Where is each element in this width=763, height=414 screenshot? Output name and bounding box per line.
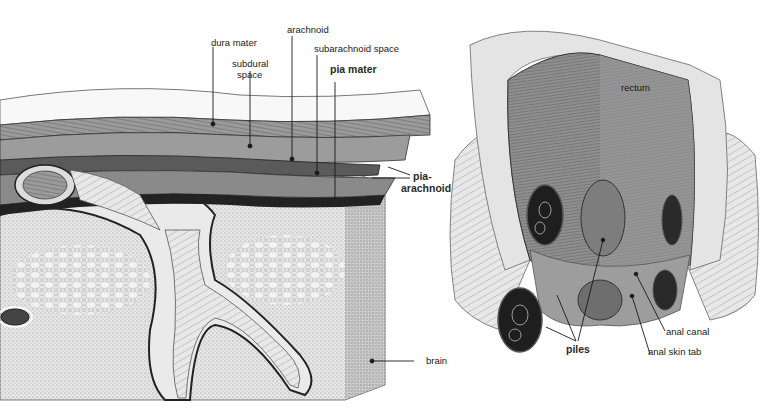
label-pia-mater: pia mater (330, 64, 377, 76)
label-anal-canal: anal canal (666, 327, 709, 337)
external-pile (498, 288, 542, 352)
label-dura-mater: dura mater (211, 38, 257, 48)
label-subdural-space-line2: space (237, 70, 262, 80)
anatomy-figure: dura mater subdural space arachnoid suba… (0, 0, 763, 414)
label-subarachnoid-space: subarachnoid space (314, 44, 399, 54)
label-arachnoid: arachnoid (287, 25, 329, 35)
label-pia-arachnoid-line1: pia- (413, 171, 432, 183)
internal-pile (581, 180, 625, 256)
label-rectum: rectum (621, 83, 650, 93)
label-subdural-space-line1: subdural (232, 59, 268, 69)
label-anal-skin-tab: anal skin tab (648, 347, 701, 357)
label-piles: piles (566, 344, 590, 356)
label-brain: brain (426, 356, 447, 366)
label-pia-arachnoid-line2: arachnoid (401, 183, 451, 195)
